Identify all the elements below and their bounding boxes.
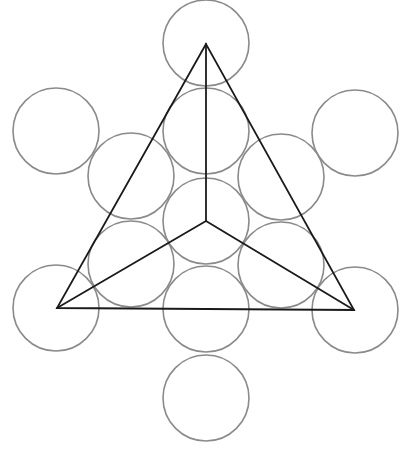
circle-outer-upper-left xyxy=(13,88,99,174)
circle-bottom xyxy=(163,355,249,441)
spoke-left-to-center xyxy=(57,221,206,308)
spoke-right-to-center xyxy=(206,221,354,310)
triangle-group xyxy=(57,44,354,310)
circle-outer-upper-right xyxy=(312,90,398,176)
geometry-diagram xyxy=(0,0,402,452)
circle-inner-lower-right xyxy=(238,222,324,308)
